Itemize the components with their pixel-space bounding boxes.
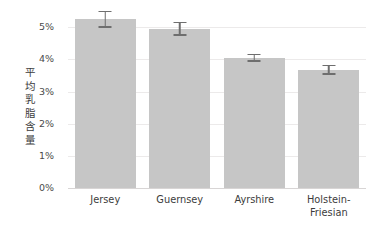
gridline xyxy=(68,188,366,189)
y-tick-label: 5% xyxy=(24,22,54,32)
error-bar xyxy=(248,54,261,62)
bar-chart: 平均乳脂含量 0%1%2%3%4%5% JerseyGuernseyAyrshi… xyxy=(0,0,373,229)
x-tick-label: Holstein-Friesian xyxy=(292,193,367,219)
bar-group xyxy=(75,8,136,188)
x-axis-labels: JerseyGuernseyAyrshireHolstein-Friesian xyxy=(68,193,366,229)
x-tick-label-line: Ayrshire xyxy=(217,193,292,206)
error-bar xyxy=(173,22,186,36)
error-bar-cap-top xyxy=(173,22,186,24)
bar xyxy=(75,19,136,188)
error-bar-cap-bottom xyxy=(322,73,335,75)
error-bar-cap-bottom xyxy=(99,26,112,28)
error-bar xyxy=(99,11,112,28)
y-tick-label: 2% xyxy=(24,119,54,129)
bar xyxy=(149,29,210,188)
x-tick-label-line: Friesian xyxy=(292,206,367,219)
bar-group xyxy=(149,8,210,188)
y-axis-title: 平均乳脂含量 xyxy=(22,66,37,147)
error-bar xyxy=(322,65,335,75)
x-tick-label-line: Jersey xyxy=(68,193,143,206)
y-tick-label: 3% xyxy=(24,87,54,97)
y-tick-label: 0% xyxy=(24,183,54,193)
plot-area: 0%1%2%3%4%5% xyxy=(68,8,366,188)
x-tick-label: Jersey xyxy=(68,193,143,206)
x-tick-label: Guernsey xyxy=(143,193,218,206)
error-bar-cap-bottom xyxy=(248,60,261,62)
bar xyxy=(298,70,359,188)
x-tick-label: Ayrshire xyxy=(217,193,292,206)
bar xyxy=(224,58,285,188)
bar-group xyxy=(298,8,359,188)
y-tick-label: 4% xyxy=(24,54,54,64)
x-tick-label-line: Guernsey xyxy=(143,193,218,206)
x-tick-label-line: Holstein- xyxy=(292,193,367,206)
y-tick-label: 1% xyxy=(24,151,54,161)
bars-layer xyxy=(68,8,366,188)
error-bar-stem xyxy=(105,11,107,28)
error-bar-cap-top xyxy=(99,11,112,13)
error-bar-cap-top xyxy=(322,65,335,67)
error-bar-cap-bottom xyxy=(173,34,186,36)
error-bar-cap-top xyxy=(248,54,261,56)
bar-group xyxy=(224,8,285,188)
